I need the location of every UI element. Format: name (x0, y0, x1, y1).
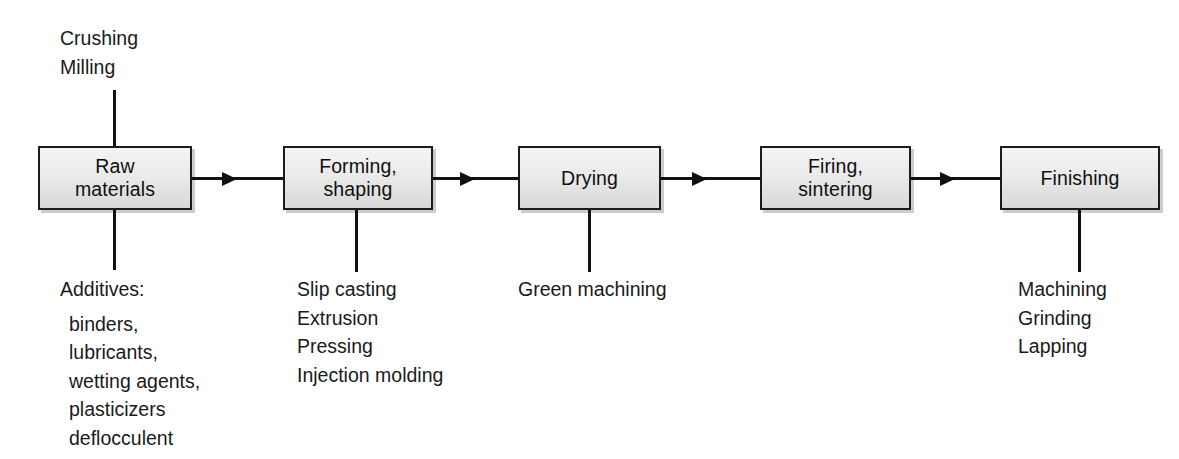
arrow-head-icon (692, 172, 707, 186)
arrow-head-icon (460, 172, 475, 186)
connector-line-drying-to-firing (661, 177, 760, 180)
label-above-raw-materials: Crushing Milling (60, 24, 138, 81)
text-row: lubricants, (60, 338, 200, 367)
process-flow-diagram: Crushing Milling Raw materials Forming, … (0, 0, 1179, 459)
text-row: Crushing (60, 24, 138, 53)
connector-line-firing-to-finishing (911, 177, 1000, 180)
text-row: Grinding (1018, 304, 1107, 333)
connector-line-forming-to-drying (433, 177, 518, 180)
text-row: Green machining (518, 275, 667, 304)
text-row: deflocculent (60, 424, 200, 453)
stage-box-forming-shaping[interactable]: Forming, shaping (283, 146, 433, 210)
arrow-head-icon (222, 172, 237, 186)
stage-box-drying[interactable]: Drying (518, 146, 661, 210)
stem-finishing-to-operations (1078, 210, 1081, 272)
stem-raw-materials-to-additives (113, 210, 116, 270)
stem-crushing-milling-to-raw-materials (113, 90, 116, 148)
text-row: Milling (60, 53, 138, 82)
text-row: Lapping (1018, 332, 1107, 361)
stage-box-raw-materials[interactable]: Raw materials (38, 146, 192, 210)
stage-label: Forming, shaping (319, 155, 397, 201)
stem-drying-to-green-machining (588, 210, 591, 272)
stage-box-finishing[interactable]: Finishing (1000, 146, 1160, 210)
label-below-drying: Green machining (518, 275, 667, 304)
text-heading: Additives: (60, 275, 200, 304)
text-row: Extrusion (297, 304, 443, 333)
text-row: wetting agents, (60, 367, 200, 396)
stage-label: Raw materials (75, 155, 155, 201)
text-row: Slip casting (297, 275, 443, 304)
stage-label: Firing, sintering (798, 155, 873, 201)
connector-line-raw-to-forming (192, 177, 283, 180)
stage-box-firing-sintering[interactable]: Firing, sintering (760, 146, 911, 210)
text-row: Machining (1018, 275, 1107, 304)
text-row: Injection molding (297, 361, 443, 390)
text-row: Pressing (297, 332, 443, 361)
label-below-raw-materials: Additives: binders, lubricants, wetting … (60, 275, 200, 452)
text-row: binders, (60, 310, 200, 339)
arrow-head-icon (940, 172, 955, 186)
label-below-finishing: Machining Grinding Lapping (1018, 275, 1107, 361)
text-row: plasticizers (60, 395, 200, 424)
label-below-forming-shaping: Slip casting Extrusion Pressing Injectio… (297, 275, 443, 389)
stage-label: Finishing (1041, 167, 1120, 190)
stem-forming-shaping-to-methods (355, 210, 358, 272)
stage-label: Drying (561, 167, 618, 190)
